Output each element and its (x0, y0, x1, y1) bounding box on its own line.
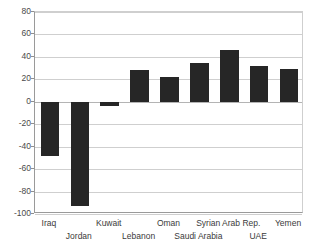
y-tick-label: -60 (1, 164, 31, 173)
x-tick-label: Yemen (275, 219, 301, 228)
bar (220, 50, 239, 102)
x-tick-label: Kuwait (96, 219, 122, 228)
y-tick-label: -80 (1, 186, 31, 195)
y-tick-label: -40 (1, 141, 31, 150)
x-tick-label: Syrian Arab Rep. (196, 219, 260, 228)
y-tick-label: 20 (1, 74, 31, 83)
plot-area (34, 11, 303, 213)
bar (190, 63, 209, 102)
y-tick-label: -20 (1, 119, 31, 128)
y-tick-label: 40 (1, 52, 31, 61)
bar (71, 102, 90, 206)
bar-series (35, 12, 302, 212)
bar (160, 77, 179, 102)
x-tick-label: Iraq (42, 219, 57, 228)
x-tick-label: Lebanon (122, 232, 155, 241)
bar (130, 70, 149, 101)
bar (250, 66, 269, 102)
bar (280, 69, 299, 102)
bar (41, 102, 60, 156)
bar (100, 102, 119, 106)
x-axis-tick-labels: IraqJordanKuwaitLebanonOmanSaudi ArabiaS… (34, 214, 303, 248)
y-tick-label: 60 (1, 29, 31, 38)
x-tick-label: Jordan (66, 232, 92, 241)
y-tick-label: 0 (1, 97, 31, 106)
y-tick-label: -100 (1, 209, 31, 218)
x-tick-label: UAE (249, 232, 266, 241)
x-tick-label: Saudi Arabia (174, 232, 222, 241)
x-tick-label: Oman (157, 219, 180, 228)
y-tick-label: 80 (1, 7, 31, 16)
bar-chart: 806040200-20-40-60-80-100 IraqJordanKuwa… (0, 0, 313, 250)
y-axis-tick-labels: 806040200-20-40-60-80-100 (0, 11, 31, 213)
